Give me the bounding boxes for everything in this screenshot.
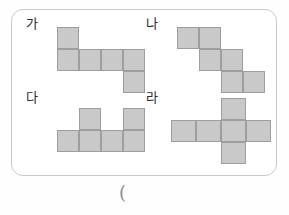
polyomino-grid-da <box>57 108 145 152</box>
net-cell-empty <box>101 27 123 49</box>
net-cell-empty <box>171 98 196 120</box>
net-cell-filled <box>123 108 145 130</box>
net-cell-filled <box>57 27 79 49</box>
figure-label-na: 나 <box>146 16 158 31</box>
answer-parenthesis: ( <box>119 183 126 203</box>
net-cell-empty <box>221 27 243 49</box>
net-cell-filled <box>123 49 145 71</box>
net-cell-empty <box>243 49 265 71</box>
net-cell-empty <box>101 108 123 130</box>
net-cell-empty <box>123 27 145 49</box>
net-cell-filled <box>79 49 101 71</box>
net-cell-empty <box>171 142 196 164</box>
figure-label-ra: 라 <box>146 90 158 105</box>
net-cell-filled <box>221 49 243 71</box>
net-cell-empty <box>196 142 221 164</box>
figure-label-ga: 가 <box>26 16 38 31</box>
figure-da: 다 <box>26 90 146 172</box>
net-cell-filled <box>79 130 101 152</box>
net-cell-filled <box>177 27 199 49</box>
figure-ga: 가 <box>26 16 146 94</box>
polyomino-grid-ra <box>171 98 271 164</box>
net-cell-empty <box>196 98 221 120</box>
net-cell-filled <box>246 120 271 142</box>
net-cell-empty <box>177 49 199 71</box>
net-cell-filled <box>57 130 79 152</box>
net-cell-filled <box>101 49 123 71</box>
figure-na: 나 <box>146 16 274 94</box>
net-cell-filled <box>57 49 79 71</box>
net-cell-empty <box>57 108 79 130</box>
net-cell-filled <box>196 120 221 142</box>
figure-ra: 라 <box>146 90 274 172</box>
polyomino-grid-na <box>177 27 265 93</box>
figure-label-da: 다 <box>26 90 38 105</box>
net-cell-filled <box>221 142 246 164</box>
net-cell-filled <box>123 130 145 152</box>
net-cell-empty <box>246 142 271 164</box>
worksheet-page: 가 나 다 라 ( <box>0 0 289 215</box>
figure-card: 가 나 다 라 <box>11 9 277 176</box>
net-cell-filled <box>221 98 246 120</box>
net-cell-empty <box>243 27 265 49</box>
net-cell-filled <box>171 120 196 142</box>
net-cell-filled <box>101 130 123 152</box>
net-cell-filled <box>199 27 221 49</box>
net-cell-filled <box>79 108 101 130</box>
net-cell-filled <box>199 49 221 71</box>
net-cell-empty <box>79 27 101 49</box>
net-cell-empty <box>246 98 271 120</box>
net-cell-filled <box>221 120 246 142</box>
polyomino-grid-ga <box>57 27 145 93</box>
